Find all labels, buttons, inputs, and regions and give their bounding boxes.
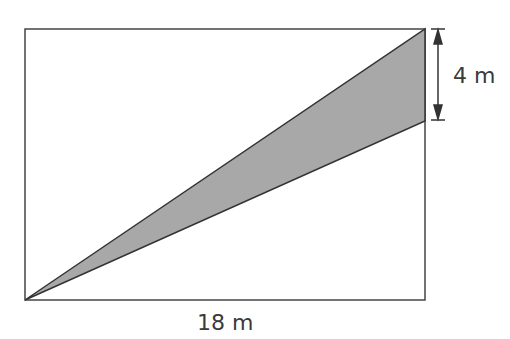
shaded-triangle xyxy=(25,29,425,300)
height-label: 4 m xyxy=(453,63,495,88)
diagram-canvas xyxy=(0,0,510,339)
dimension-arrow-icon xyxy=(431,29,445,120)
width-label: 18 m xyxy=(197,310,253,335)
